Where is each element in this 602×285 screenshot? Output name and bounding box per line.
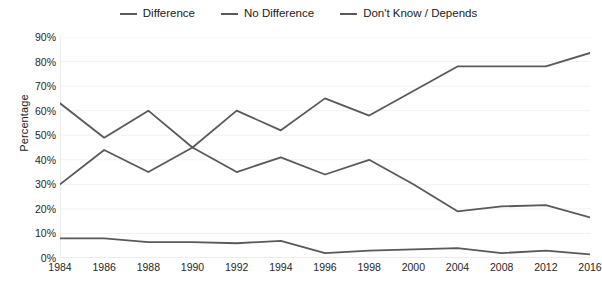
x-axis-tick-labels: 1984198619881990199219941996199820002004… [60, 261, 590, 277]
x-axis-tick-label: 1988 [137, 261, 160, 273]
legend-label-difference: Difference [143, 8, 195, 20]
y-axis-tick-label: 30% [14, 178, 56, 190]
legend-label-no-difference: No Difference [244, 8, 314, 20]
legend-line-swatch-dont-know-depends [340, 13, 357, 15]
x-axis-tick-label: 1992 [225, 261, 248, 273]
legend-line-swatch-difference [120, 13, 137, 15]
series-line-difference [60, 53, 590, 148]
plot-svg [60, 37, 590, 258]
y-axis-tick-label: 70% [14, 80, 56, 92]
series-lines [60, 53, 590, 254]
x-axis-tick-label: 2016 [578, 261, 601, 273]
y-axis-tick-label: 10% [14, 227, 56, 239]
series-line-don-t-know-depends [60, 238, 590, 254]
y-axis-tick-label: 40% [14, 154, 56, 166]
x-axis-tick-label: 1998 [357, 261, 380, 273]
x-axis-tick-label: 2004 [446, 261, 469, 273]
x-axis-tick-label: 1994 [269, 261, 292, 273]
y-axis-tick-label: 50% [14, 129, 56, 141]
y-axis-tick-label: 90% [14, 31, 56, 43]
legend-item-difference[interactable]: Difference [120, 8, 195, 20]
x-axis-tick-label: 1984 [48, 261, 71, 273]
x-axis-tick-label: 2008 [490, 261, 513, 273]
y-axis-tick-label: 20% [14, 203, 56, 215]
legend-item-no-difference[interactable]: No Difference [221, 8, 314, 20]
x-axis-tick-label: 1996 [313, 261, 336, 273]
chart-legend: Difference No Difference Don't Know / De… [0, 8, 597, 20]
plot-area [60, 37, 590, 258]
gridlines [60, 37, 590, 258]
y-axis-tick-label: 60% [14, 105, 56, 117]
legend-item-dont-know-depends[interactable]: Don't Know / Depends [340, 8, 477, 20]
series-line-no-difference [60, 148, 590, 218]
x-axis-tick-label: 1990 [181, 261, 204, 273]
legend-line-swatch-no-difference [221, 13, 238, 15]
x-axis-tick-label: 2000 [402, 261, 425, 273]
x-axis-tick-label: 2012 [534, 261, 557, 273]
legend-label-dont-know-depends: Don't Know / Depends [363, 8, 477, 20]
y-axis-tick-label: 80% [14, 56, 56, 68]
x-axis-tick-label: 1986 [92, 261, 115, 273]
y-axis-tick-labels: 90%80%70%60%50%40%30%20%10%0% [14, 37, 56, 258]
